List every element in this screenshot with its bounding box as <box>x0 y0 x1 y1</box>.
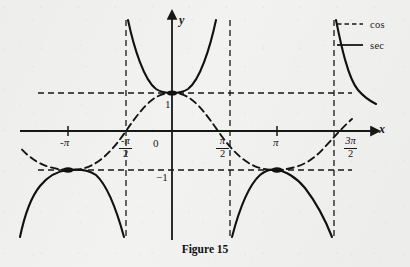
xtick-3pi-over-2-num: 3π <box>344 136 357 147</box>
figure-caption: Figure 15 <box>0 243 410 255</box>
origin-label: 0 <box>153 138 159 149</box>
sec-curve <box>20 20 376 237</box>
ytick-one: 1 <box>165 99 171 110</box>
y-axis-label: y <box>179 14 184 26</box>
x-axis <box>20 126 372 136</box>
ytick-minus-one: −1 <box>156 172 168 183</box>
figure-container: x y 0 -π -π 2 π 2 π 3π 2 1 −1 cos sec Fi… <box>0 0 410 267</box>
xtick-minus-pi: -π <box>60 137 69 148</box>
sec-cos-plot <box>0 0 410 267</box>
legend-sec-label: sec <box>370 40 384 51</box>
xtick-pi-over-2: π 2 <box>216 136 229 160</box>
x-axis-label: x <box>379 123 385 135</box>
xtick-pi: π <box>273 137 279 148</box>
xtick-pi-over-2-den: 2 <box>219 149 226 160</box>
xtick-minus-pi-over-2-num: -π <box>120 136 131 147</box>
xtick-pi-over-2-num: π <box>219 136 226 147</box>
xtick-3pi-over-2: 3π 2 <box>344 136 357 160</box>
xtick-minus-pi-over-2: -π 2 <box>119 136 132 160</box>
xtick-3pi-over-2-den: 2 <box>347 149 354 160</box>
legend-cos-label: cos <box>370 19 385 30</box>
xtick-minus-pi-over-2-den: 2 <box>122 149 129 160</box>
